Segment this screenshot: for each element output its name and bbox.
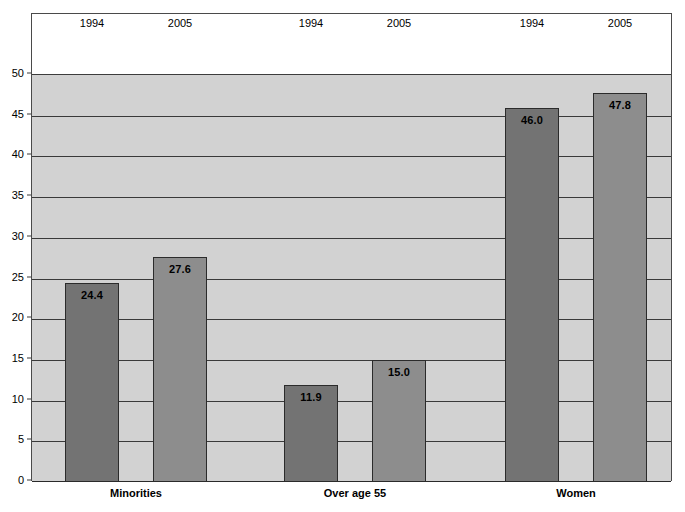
gridline	[32, 279, 671, 280]
series-year-label-2005: 2005	[168, 17, 192, 29]
bar-value-label: 24.4	[66, 289, 118, 301]
series-year-label-2005: 2005	[387, 17, 411, 29]
axis-baseline	[32, 481, 671, 482]
y-axis-tick-label: 5	[18, 434, 24, 445]
bar-women-2005[interactable]: 47.8	[593, 93, 647, 482]
y-axis-tick-label: 40	[12, 149, 24, 160]
series-year-label-1994: 1994	[520, 17, 544, 29]
bar-over-age-55-2005[interactable]: 15.0	[372, 360, 426, 482]
category-label-over-age-55: Over age 55	[324, 487, 386, 499]
bar-over-age-55-1994[interactable]: 11.9	[284, 385, 338, 482]
y-axis-tick-label: 45	[12, 108, 24, 119]
bar-minorities-2005[interactable]: 27.6	[153, 257, 207, 482]
series-header-band	[32, 14, 671, 74]
y-axis: 50454035302520151050	[0, 0, 31, 512]
gridline	[32, 319, 671, 320]
gridline	[32, 116, 671, 117]
gridline	[32, 156, 671, 157]
series-year-label-1994: 1994	[299, 17, 323, 29]
category-label-minorities: Minorities	[110, 487, 162, 499]
gridline	[32, 401, 671, 402]
bar-value-label: 27.6	[154, 263, 206, 275]
y-axis-tick-label: 20	[12, 312, 24, 323]
gridline	[32, 197, 671, 198]
gridline	[32, 238, 671, 239]
bar-women-1994[interactable]: 46.0	[505, 108, 559, 482]
y-axis-tick-label: 15	[12, 352, 24, 363]
gridline	[32, 441, 671, 442]
y-axis-tick-label: 35	[12, 190, 24, 201]
plot-frame: 24.427.611.915.046.047.8	[31, 13, 672, 481]
gridline	[32, 360, 671, 361]
bar-value-label: 46.0	[506, 114, 558, 126]
plot-canvas: 24.427.611.915.046.047.8	[32, 74, 671, 482]
y-axis-tick-label: 0	[18, 475, 24, 486]
bar-value-label: 15.0	[373, 366, 425, 378]
series-year-label-2005: 2005	[608, 17, 632, 29]
y-axis-tick-label: 50	[12, 68, 24, 79]
series-year-label-1994: 1994	[80, 17, 104, 29]
y-axis-tick-label: 10	[12, 393, 24, 404]
bar-minorities-1994[interactable]: 24.4	[65, 283, 119, 482]
y-axis-tick-label: 30	[12, 230, 24, 241]
y-axis-tick-label: 25	[12, 271, 24, 282]
bar-value-label: 11.9	[285, 391, 337, 403]
bar-value-label: 47.8	[594, 99, 646, 111]
category-label-women: Women	[556, 487, 596, 499]
bar-chart: 50454035302520151050 24.427.611.915.046.…	[0, 0, 685, 512]
